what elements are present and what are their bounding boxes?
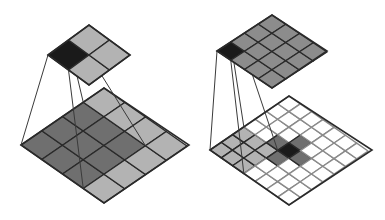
diagram-canvas: Convolution illustrations (0, 0, 385, 220)
right-convolution-panel (210, 15, 372, 205)
right-output-grid (217, 15, 327, 88)
convolution-diagram: Convolution illustrations (0, 0, 385, 220)
left-output-grid (48, 25, 130, 85)
left-convolution-panel (21, 25, 189, 203)
right-projection-line-0 (210, 51, 217, 150)
left-input-grid (21, 88, 189, 203)
right-input-grid (210, 96, 372, 205)
